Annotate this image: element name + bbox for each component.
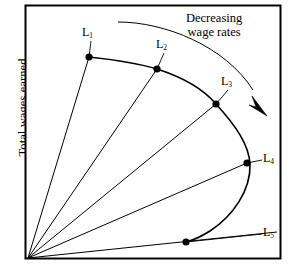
label-L4-sub: 4 xyxy=(270,157,274,166)
diagram-svg xyxy=(0,0,289,276)
label-L3-sub: 3 xyxy=(228,80,232,89)
label-L4: L4 xyxy=(263,151,274,166)
point-L1 xyxy=(85,53,92,60)
label-L1: L1 xyxy=(82,25,93,40)
note-line-1: Decreasing xyxy=(186,11,242,25)
figure-canvas: Total wages earned xyxy=(0,0,289,276)
point-L2 xyxy=(153,65,160,72)
point-L5 xyxy=(182,238,189,245)
label-L2-sub: 2 xyxy=(163,43,167,52)
label-L5-sub: 5 xyxy=(270,231,274,240)
note-line-2: wage rates xyxy=(188,25,241,39)
label-L1-sub: 1 xyxy=(89,31,93,40)
label-L2: L2 xyxy=(156,37,167,52)
plot-frame xyxy=(26,6,281,259)
point-L4 xyxy=(243,159,250,166)
decreasing-wage-rates-note: Decreasing wage rates xyxy=(186,12,242,39)
label-L5: L5 xyxy=(263,225,274,240)
point-L3 xyxy=(212,100,219,107)
label-L3: L3 xyxy=(221,74,232,89)
